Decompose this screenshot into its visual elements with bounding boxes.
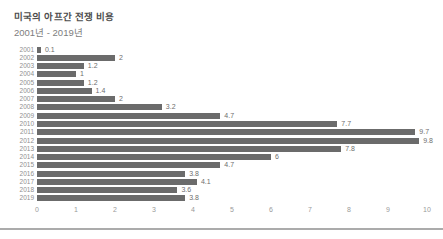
year-label: 2011 bbox=[0, 128, 37, 136]
bar-row: 20072 bbox=[0, 95, 443, 103]
bar bbox=[37, 171, 185, 177]
year-label: 2017 bbox=[0, 178, 37, 186]
value-label: 6 bbox=[275, 153, 279, 161]
x-tick-label: 4 bbox=[191, 206, 195, 213]
x-tick-label: 1 bbox=[74, 206, 78, 213]
year-label: 2018 bbox=[0, 186, 37, 194]
value-label: 1.2 bbox=[88, 79, 98, 87]
bar bbox=[37, 121, 337, 127]
value-label: 7.7 bbox=[341, 120, 351, 128]
bar-row: 20174.1 bbox=[0, 178, 443, 186]
value-label: 7.8 bbox=[345, 145, 355, 153]
value-label: 3.2 bbox=[166, 103, 176, 111]
value-label: 3.8 bbox=[189, 194, 199, 202]
value-label: 1 bbox=[80, 70, 84, 78]
bar-row: 20022 bbox=[0, 54, 443, 62]
value-label: 4.7 bbox=[224, 112, 234, 120]
bar-rows: 20010.12002220031.22004120051.220061.420… bbox=[0, 46, 443, 203]
bar bbox=[37, 138, 419, 144]
bar bbox=[37, 195, 185, 201]
year-label: 2014 bbox=[0, 153, 37, 161]
bottom-divider bbox=[0, 228, 443, 230]
x-tick-label: 0 bbox=[35, 206, 39, 213]
year-label: 2013 bbox=[0, 145, 37, 153]
year-label: 2005 bbox=[0, 79, 37, 87]
year-label: 2019 bbox=[0, 194, 37, 202]
bar-row: 20031.2 bbox=[0, 62, 443, 70]
bar-row: 20193.8 bbox=[0, 194, 443, 202]
x-axis: 012345678910 bbox=[37, 206, 427, 218]
bar bbox=[37, 162, 220, 168]
year-label: 2016 bbox=[0, 170, 37, 178]
bar bbox=[37, 88, 92, 94]
bar-row: 20094.7 bbox=[0, 112, 443, 120]
bar bbox=[37, 104, 162, 110]
bar-row: 20137.8 bbox=[0, 145, 443, 153]
year-label: 2003 bbox=[0, 62, 37, 70]
bar bbox=[37, 113, 220, 119]
x-tick-label: 5 bbox=[230, 206, 234, 213]
value-label: 4.7 bbox=[224, 161, 234, 169]
value-label: 3.6 bbox=[181, 186, 191, 194]
value-label: 3.8 bbox=[189, 170, 199, 178]
year-label: 2001 bbox=[0, 46, 37, 54]
value-label: 1.2 bbox=[88, 62, 98, 70]
bar bbox=[37, 179, 197, 185]
value-label: 2 bbox=[119, 54, 123, 62]
value-label: 2 bbox=[119, 95, 123, 103]
chart-subtitle: 2001년 - 2019년 bbox=[14, 25, 83, 39]
year-label: 2007 bbox=[0, 95, 37, 103]
chart-title: 미국의 아프간 전쟁 비용 bbox=[14, 9, 115, 23]
bar-row: 20146 bbox=[0, 153, 443, 161]
bar bbox=[37, 71, 76, 77]
year-label: 2006 bbox=[0, 87, 37, 95]
bar bbox=[37, 146, 341, 152]
year-label: 2010 bbox=[0, 120, 37, 128]
x-tick-label: 3 bbox=[152, 206, 156, 213]
year-label: 2015 bbox=[0, 161, 37, 169]
x-tick-label: 10 bbox=[423, 206, 431, 213]
bar-row: 20107.7 bbox=[0, 120, 443, 128]
bar-row: 20010.1 bbox=[0, 46, 443, 54]
bar-row: 20061.4 bbox=[0, 87, 443, 95]
value-label: 9.8 bbox=[423, 137, 433, 145]
bar bbox=[37, 55, 115, 61]
bar-row: 20163.8 bbox=[0, 169, 443, 177]
bar-row: 20154.7 bbox=[0, 161, 443, 169]
bar bbox=[37, 96, 115, 102]
bar bbox=[37, 47, 41, 53]
value-label: 9.7 bbox=[419, 128, 429, 136]
x-tick-label: 6 bbox=[269, 206, 273, 213]
x-tick-label: 9 bbox=[386, 206, 390, 213]
bar-row: 20129.8 bbox=[0, 136, 443, 144]
bar bbox=[37, 129, 415, 135]
year-label: 2012 bbox=[0, 137, 37, 145]
value-label: 1.4 bbox=[96, 87, 106, 95]
x-tick-label: 2 bbox=[113, 206, 117, 213]
bar-row: 20041 bbox=[0, 70, 443, 78]
year-label: 2009 bbox=[0, 112, 37, 120]
year-label: 2008 bbox=[0, 103, 37, 111]
x-tick-label: 8 bbox=[347, 206, 351, 213]
year-label: 2004 bbox=[0, 70, 37, 78]
bar-row: 20183.6 bbox=[0, 186, 443, 194]
bar bbox=[37, 63, 84, 69]
bar bbox=[37, 154, 271, 160]
bar-row: 20051.2 bbox=[0, 79, 443, 87]
bar bbox=[37, 187, 177, 193]
bar bbox=[37, 80, 84, 86]
x-tick-label: 7 bbox=[308, 206, 312, 213]
year-label: 2002 bbox=[0, 54, 37, 62]
bar-row: 20119.7 bbox=[0, 128, 443, 136]
value-label: 0.1 bbox=[45, 46, 55, 54]
bar-row: 20083.2 bbox=[0, 103, 443, 111]
chart-card: 미국의 아프간 전쟁 비용 2001년 - 2019년 20010.120022… bbox=[0, 0, 443, 239]
value-label: 4.1 bbox=[201, 178, 211, 186]
